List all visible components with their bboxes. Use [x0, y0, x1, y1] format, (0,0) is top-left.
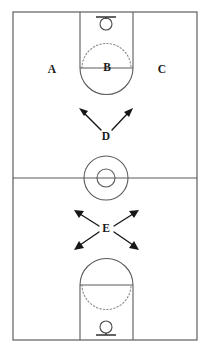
arrow-e-up-left-head — [74, 210, 84, 218]
bottom-freethrow-arc-dotted — [82, 285, 131, 310]
arrow-e-up-right-head — [129, 210, 139, 218]
bottom-hoop-ring-icon — [100, 321, 112, 333]
top-hoop-ring-icon — [100, 18, 112, 30]
arrow-e-down-left-head — [74, 241, 84, 250]
zone-label-e: E — [102, 222, 110, 234]
arrow-d-up-left-shaft — [84, 113, 101, 130]
bottom-key-group — [80, 259, 133, 341]
arrow-e-up-left-shaft — [80, 214, 99, 226]
arrow-e-up-right-shaft — [114, 214, 133, 226]
arrow-group-d — [79, 108, 133, 130]
zone-label-c: C — [158, 63, 166, 75]
bottom-freethrow-arc-solid — [80, 259, 133, 286]
zone-label-a: A — [48, 63, 57, 75]
court-svg-canvas: A B C D E — [0, 0, 211, 351]
basketball-court-diagram: A B C D E — [0, 0, 211, 351]
arrow-e-down-right-shaft — [114, 232, 133, 245]
zone-label-d: D — [102, 130, 110, 142]
top-key-group — [80, 12, 133, 95]
arrow-d-up-right-shaft — [112, 113, 128, 130]
arrow-e-down-left-shaft — [80, 232, 99, 245]
zone-label-b: B — [103, 61, 111, 73]
arrow-e-down-right-head — [129, 241, 139, 250]
